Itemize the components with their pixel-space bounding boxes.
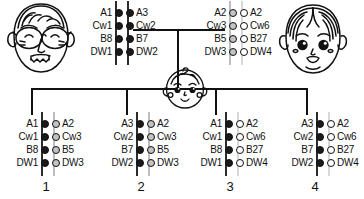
child-3-left-allele: DW1 [192, 158, 225, 168]
father-right-allele: B7 [134, 34, 169, 44]
mother-locus-row: A2 A2 [196, 6, 282, 19]
mother-left-allele: B5 [196, 34, 229, 44]
child-2-left-allele: A3 [103, 119, 136, 129]
child-1-locus-row: Cw1 Cw3 [8, 130, 94, 143]
sibling-drop-3 [215, 88, 217, 115]
child-1-right-bead [52, 146, 60, 154]
father-locus-row: DW1 DW2 [82, 45, 168, 58]
mother-left-bead [229, 9, 237, 17]
child-2-locus-row: DW2 DW3 [103, 156, 189, 169]
father-right-allele: DW2 [134, 47, 169, 57]
mother-left-allele: Cw3 [196, 21, 229, 31]
child-4-locus-row: B7 B27 [283, 143, 364, 156]
mother-right-bead [240, 35, 248, 43]
father-locus-row: Cw1 Cw2 [82, 19, 168, 32]
child-1-left-bead [41, 133, 49, 141]
child-4-left-bead [316, 146, 324, 154]
child-2-left-allele: B7 [103, 145, 136, 155]
child-4-right-bead [327, 133, 335, 141]
child-2-left-bead [136, 133, 144, 141]
child-1-locus-row: A1 A2 [8, 117, 94, 130]
child-1-right-bead [52, 120, 60, 128]
child-3-left-bead [225, 120, 233, 128]
child-2-left-allele: Cw2 [103, 132, 136, 142]
child-4-left-bead [316, 120, 324, 128]
child-3-left-bead [225, 133, 233, 141]
child-4-right-bead [327, 120, 335, 128]
father-haplotypes: A1 A3 Cw1 Cw2 B8 B7 DW1 DW2 [82, 6, 168, 58]
child-3-right-allele: B27 [244, 145, 279, 155]
child-2-locus-row: Cw2 Cw3 [103, 130, 189, 143]
mother-right-bead [240, 9, 248, 17]
child-3-right-bead [236, 159, 244, 167]
child-1-right-allele: A2 [60, 119, 95, 129]
mother-right-bead [240, 48, 248, 56]
child-3-right-allele: Cw6 [244, 132, 279, 142]
mother-locus-row: B5 B27 [196, 32, 282, 45]
mother-right-bead [240, 22, 248, 30]
child-4-left-allele: A3 [283, 119, 316, 129]
child-3-right-bead [236, 120, 244, 128]
child-2-right-allele: DW3 [155, 158, 190, 168]
child-1-right-allele: B5 [60, 145, 95, 155]
child-4-left-bead [316, 133, 324, 141]
father-right-allele: A3 [134, 8, 169, 18]
child-1-locus-row: DW1 DW3 [8, 156, 94, 169]
child-1-left-allele: B8 [8, 145, 41, 155]
child-4-right-allele: A2 [335, 119, 364, 129]
father-right-bead [126, 9, 134, 17]
father-right-bead [126, 22, 134, 30]
child-1-left-bead [41, 159, 49, 167]
child-1-right-allele: DW3 [60, 158, 95, 168]
child-1-right-allele: Cw3 [60, 132, 95, 142]
father-locus-row: A1 A3 [82, 6, 168, 19]
child-1-locus-row: B8 B5 [8, 143, 94, 156]
child-3-locus-row: DW1 DW4 [192, 156, 278, 169]
mother-left-bead [229, 22, 237, 30]
father-left-allele: Cw1 [82, 21, 115, 31]
child-4-left-bead [316, 159, 324, 167]
child-1-left-bead [41, 146, 49, 154]
child-4-left-allele: B7 [283, 145, 316, 155]
mother-haplotypes: A2 A2 Cw3 Cw6 B5 B27 DW3 DW4 [196, 6, 282, 58]
child-4-left-allele: DW2 [283, 158, 316, 168]
child-1-right-bead [52, 133, 60, 141]
child-2-right-allele: B5 [155, 145, 190, 155]
child-4-locus-row: DW2 DW4 [283, 156, 364, 169]
mother-locus-row: DW3 DW4 [196, 45, 282, 58]
child-3-haplotypes: A1 A2 Cw1 Cw6 B8 B27 DW1 DW4 [192, 117, 278, 169]
mother-face-icon [276, 3, 350, 75]
father-right-bead [126, 48, 134, 56]
child-2-haplotypes: A3 A2 Cw2 Cw3 B7 B5 DW2 DW3 [103, 117, 189, 169]
father-left-allele: B8 [82, 34, 115, 44]
child-3-index: 3 [220, 180, 240, 193]
child-4-haplotypes: A3 A2 Cw2 Cw6 B7 B27 DW2 DW4 [283, 117, 364, 169]
child-3-right-allele: A2 [244, 119, 279, 129]
mother-locus-row: Cw3 Cw6 [196, 19, 282, 32]
child-3-locus-row: Cw1 Cw6 [192, 130, 278, 143]
child-2-index: 2 [131, 180, 151, 193]
child-3-left-allele: Cw1 [192, 132, 225, 142]
child-2-right-allele: A2 [155, 119, 190, 129]
child-3-right-bead [236, 133, 244, 141]
child-4-locus-row: Cw2 Cw6 [283, 130, 364, 143]
child-1-left-bead [41, 120, 49, 128]
child-2-right-bead [147, 133, 155, 141]
child-3-left-allele: B8 [192, 145, 225, 155]
mother-left-bead [229, 48, 237, 56]
child-3-left-bead [225, 159, 233, 167]
child-1-haplotypes: A1 A2 Cw1 Cw3 B8 B5 DW1 DW3 [8, 117, 94, 169]
father-left-bead [115, 9, 123, 17]
child-2-right-bead [147, 146, 155, 154]
child-2-left-allele: DW2 [103, 158, 136, 168]
child-4-right-allele: Cw6 [335, 132, 364, 142]
child-1-left-allele: Cw1 [8, 132, 41, 142]
child-4-index: 4 [305, 180, 325, 193]
child-3-locus-row: B8 B27 [192, 143, 278, 156]
child-3-right-allele: DW4 [244, 158, 279, 168]
sibling-drop-1 [31, 88, 33, 115]
child-4-right-allele: B27 [335, 145, 364, 155]
father-left-allele: DW1 [82, 47, 115, 57]
child-1-index: 1 [36, 180, 56, 193]
